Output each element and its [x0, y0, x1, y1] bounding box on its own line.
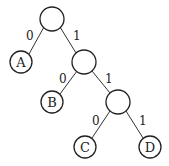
node-internal-2: [106, 90, 130, 114]
edge-label-n1-B: 0: [59, 72, 67, 86]
node-A: A: [10, 51, 32, 73]
edge-label-root-n1: 1: [73, 29, 81, 43]
huffman-tree-diagram: 0 1 0 1 0 1 A B C D: [0, 0, 169, 166]
node-root: [40, 7, 64, 31]
node-label-A: A: [15, 55, 26, 70]
edge-label-n2-C: 0: [92, 114, 100, 128]
node-B: B: [41, 91, 63, 113]
edge-label-n2-D: 1: [139, 114, 147, 128]
node-label-D: D: [145, 140, 155, 155]
node-label-C: C: [80, 140, 90, 155]
node-D: D: [139, 136, 161, 158]
node-internal-1: [72, 50, 96, 74]
edge-label-n1-n2: 1: [105, 72, 113, 86]
edge-label-root-A: 0: [26, 29, 34, 43]
node-C: C: [74, 136, 96, 158]
node-label-B: B: [47, 95, 57, 110]
